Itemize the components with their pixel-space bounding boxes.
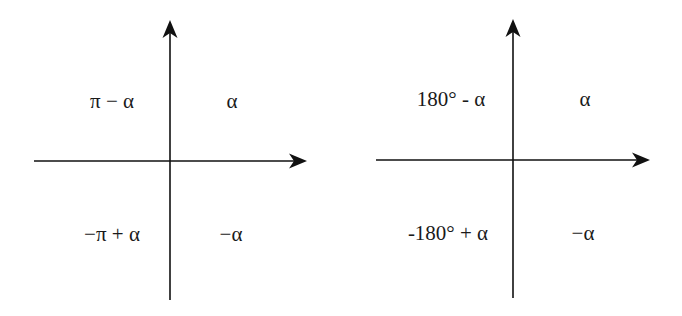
left-quadrant-3-label: −π + α (84, 224, 140, 245)
right-diagram-axes (376, 19, 650, 298)
left-diagram-axes (34, 20, 307, 300)
left-quadrant-2-label: π − α (90, 91, 134, 112)
right-quadrant-4-label: −α (572, 223, 595, 244)
left-quadrant-1-label: α (226, 91, 237, 112)
right-quadrant-1-label: α (579, 89, 590, 110)
right-quadrant-3-label: -180° + α (408, 223, 488, 244)
axes-canvas (0, 0, 682, 316)
left-quadrant-4-label: −α (220, 224, 243, 245)
right-quadrant-2-label: 180° - α (417, 89, 485, 110)
